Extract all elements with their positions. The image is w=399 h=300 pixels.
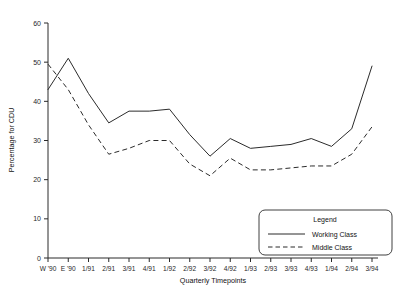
x-tick-label: 2/94 bbox=[345, 265, 358, 272]
x-tick-label: 4/93 bbox=[305, 265, 318, 272]
chart-container: 0102030405060 W '90E '901/912/913/914/91… bbox=[0, 0, 399, 300]
y-tick-label: 30 bbox=[33, 137, 41, 144]
legend-title: Legend bbox=[313, 216, 336, 224]
x-tick-label: W '90 bbox=[40, 265, 57, 272]
y-tick-label: 20 bbox=[33, 176, 41, 183]
y-tick-label: 10 bbox=[33, 215, 41, 222]
y-tick-label: 0 bbox=[37, 255, 41, 262]
x-tick-label: 1/92 bbox=[163, 265, 176, 272]
x-tick-label: 4/91 bbox=[143, 265, 156, 272]
y-tick-label: 60 bbox=[33, 20, 41, 27]
legend: Legend Working Class Middle Class bbox=[259, 210, 392, 255]
x-tick-label: 1/93 bbox=[244, 265, 257, 272]
x-tick-label: 1/91 bbox=[82, 265, 95, 272]
x-tick-label: 2/92 bbox=[183, 265, 196, 272]
x-tick-label: 2/91 bbox=[102, 265, 115, 272]
x-tick-label: 4/92 bbox=[224, 265, 237, 272]
x-tick-label: 3/94 bbox=[366, 265, 379, 272]
x-tick-label: 3/92 bbox=[204, 265, 217, 272]
x-tick-label: 3/93 bbox=[285, 265, 298, 272]
y-tick-label: 50 bbox=[33, 59, 41, 66]
x-tick-label: E '90 bbox=[61, 265, 76, 272]
x-tick-label: 1/94 bbox=[325, 265, 338, 272]
x-tick-label: 3/91 bbox=[123, 265, 136, 272]
y-tick-label: 40 bbox=[33, 98, 41, 105]
x-axis-title: Quarterly Timepoints bbox=[180, 276, 247, 285]
x-tick-label: 2/93 bbox=[264, 265, 277, 272]
legend-label-working-class: Working Class bbox=[312, 231, 357, 239]
legend-label-middle-class: Middle Class bbox=[312, 244, 353, 251]
line-chart: 0102030405060 W '90E '901/912/913/914/91… bbox=[0, 0, 399, 300]
y-axis-title: Percentage for CDU bbox=[7, 108, 16, 173]
